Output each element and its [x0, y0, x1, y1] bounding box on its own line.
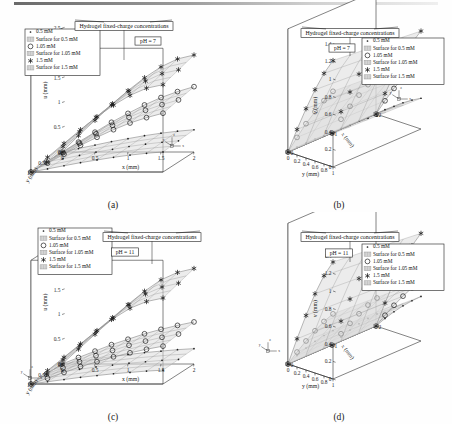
svg-text:1.5: 1.5 [158, 155, 165, 161]
svg-text:Surface for 1.5 mM: Surface for 1.5 mM [36, 64, 78, 70]
svg-text:2: 2 [193, 367, 196, 373]
svg-text:1: 1 [335, 343, 338, 349]
svg-text:1.5 mM: 1.5 mM [36, 57, 53, 63]
svg-text:0.5: 0.5 [92, 367, 99, 373]
svg-text:0: 0 [61, 155, 64, 161]
svg-text:1.05 mM: 1.05 mM [373, 258, 393, 264]
svg-text:0.6: 0.6 [312, 376, 319, 382]
svg-text:2: 2 [193, 155, 196, 161]
svg-text:x (mm): x (mm) [340, 131, 356, 149]
svg-text:y (mm): y (mm) [24, 166, 40, 184]
panel-d-plot: 00.20.40.60.811.21.41.600.20.40.60.81012… [226, 212, 452, 424]
svg-text:y (mm): y (mm) [302, 171, 319, 178]
panel-c-plot: 00.511.522.500.511.5200.51x (mm)y (mm)u … [0, 212, 226, 424]
svg-text:y (mm): y (mm) [24, 378, 40, 396]
svg-text:1: 1 [329, 288, 332, 294]
svg-text:Surface for 1.05 mM: Surface for 1.05 mM [373, 59, 418, 65]
panel-a-plot: 00.511.522.500.511.5200.51x (mm)y (mm)u … [0, 0, 226, 212]
svg-text:0.4: 0.4 [325, 129, 332, 135]
svg-text:Surface for 1.05 mM: Surface for 1.05 mM [49, 249, 94, 255]
panel-a-caption: (a) [0, 200, 226, 210]
svg-text:0.2: 0.2 [325, 146, 332, 152]
svg-text:Surface for 0.5 mM: Surface for 0.5 mM [373, 45, 415, 51]
svg-text:x: x [40, 376, 42, 380]
svg-text:1.5 mM: 1.5 mM [49, 256, 66, 262]
svg-text:1.2: 1.2 [325, 270, 332, 276]
svg-text:0.5: 0.5 [38, 160, 45, 166]
svg-text:1.5: 1.5 [158, 367, 165, 373]
svg-text:pH = 7: pH = 7 [140, 38, 156, 44]
panel-b-caption: (b) [226, 200, 452, 210]
svg-text:v (mm): v (mm) [313, 97, 320, 114]
svg-text:1: 1 [329, 76, 332, 82]
svg-text:2: 2 [379, 112, 382, 118]
svg-text:y: y [163, 138, 165, 142]
panel-c-caption: (c) [0, 412, 226, 422]
svg-text:y: y [390, 91, 392, 95]
svg-text:y (mm): y (mm) [302, 383, 319, 390]
svg-text:1.05 mM: 1.05 mM [49, 242, 69, 248]
svg-text:1: 1 [58, 311, 61, 317]
svg-text:1.5 mM: 1.5 mM [373, 272, 390, 278]
svg-text:0.5 mM: 0.5 mM [36, 28, 53, 34]
svg-text:0: 0 [291, 150, 294, 156]
svg-text:pH = 11: pH = 11 [330, 250, 349, 256]
svg-text:0.2: 0.2 [325, 358, 332, 364]
svg-text:Surface for 1.05 mM: Surface for 1.05 mM [373, 265, 418, 271]
panel-a: 00.511.522.500.511.5200.51x (mm)y (mm)u … [0, 0, 226, 212]
svg-text:0.4: 0.4 [303, 161, 310, 167]
svg-text:1: 1 [335, 131, 338, 137]
svg-text:Surface for 0.5 mM: Surface for 0.5 mM [49, 235, 91, 241]
svg-text:1: 1 [58, 99, 61, 105]
svg-text:y: y [21, 370, 23, 374]
svg-text:0.5: 0.5 [54, 124, 61, 130]
svg-text:0.2: 0.2 [294, 158, 301, 164]
svg-text:x: x [409, 97, 411, 101]
svg-text:x: x [278, 349, 280, 353]
svg-text:1: 1 [127, 155, 130, 161]
svg-text:Surface for 1.5 mM: Surface for 1.5 mM [373, 73, 415, 79]
svg-text:1.5: 1.5 [54, 287, 61, 293]
svg-text:0.5 mM: 0.5 mM [373, 37, 390, 43]
panel-c: 00.511.522.500.511.5200.51x (mm)y (mm)u … [0, 212, 226, 424]
svg-text:x: x [182, 144, 184, 148]
svg-text:Surface for 1.05 mM: Surface for 1.05 mM [36, 50, 81, 56]
svg-text:0.8: 0.8 [321, 379, 328, 385]
svg-text:Surface for 0.5 mM: Surface for 0.5 mM [373, 251, 415, 257]
svg-text:1: 1 [332, 170, 335, 176]
svg-text:Surface for 1.5 mM: Surface for 1.5 mM [373, 279, 415, 285]
svg-text:z: z [269, 338, 271, 342]
svg-text:0.6: 0.6 [312, 164, 319, 170]
svg-text:Hydrogel fixed-charge concentr: Hydrogel fixed-charge concentrations [305, 30, 395, 36]
svg-text:Surface for 0.5 mM: Surface for 0.5 mM [36, 36, 78, 42]
svg-text:0: 0 [58, 362, 61, 368]
svg-text:0.8: 0.8 [325, 94, 332, 100]
svg-text:0.5 mM: 0.5 mM [373, 243, 390, 249]
svg-text:0.6: 0.6 [325, 111, 332, 117]
svg-text:x (mm): x (mm) [122, 164, 139, 171]
svg-text:x (mm): x (mm) [122, 376, 139, 383]
svg-text:0.4: 0.4 [325, 341, 332, 347]
svg-text:0: 0 [61, 367, 64, 373]
svg-text:z: z [400, 86, 402, 90]
svg-text:1.05 mM: 1.05 mM [36, 43, 56, 49]
svg-text:0.5: 0.5 [92, 155, 99, 161]
svg-text:0.6: 0.6 [325, 323, 332, 329]
svg-text:Hydrogel fixed-charge concentr: Hydrogel fixed-charge concentrations [107, 234, 197, 240]
svg-text:v (mm): v (mm) [313, 300, 320, 317]
svg-text:x (mm): x (mm) [340, 343, 356, 361]
svg-text:Hydrogel fixed-charge concentr: Hydrogel fixed-charge concentrations [79, 23, 169, 29]
svg-text:u (mm): u (mm) [42, 81, 49, 98]
svg-text:1.2: 1.2 [325, 58, 332, 64]
svg-text:Surface for 1.5 mM: Surface for 1.5 mM [49, 263, 91, 269]
svg-text:1: 1 [127, 367, 130, 373]
panel-b: 00.20.40.60.811.21.400.20.40.60.81012y (… [226, 0, 452, 212]
svg-text:0: 0 [287, 155, 290, 161]
figure-page: 00.511.522.500.511.5200.51x (mm)y (mm)u … [0, 0, 452, 424]
svg-text:1.5 mM: 1.5 mM [373, 66, 390, 72]
svg-text:0.5 mM: 0.5 mM [49, 227, 66, 233]
svg-text:0.2: 0.2 [294, 370, 301, 376]
svg-text:0: 0 [58, 150, 61, 156]
svg-text:2: 2 [379, 324, 382, 330]
svg-text:0.4: 0.4 [303, 373, 310, 379]
